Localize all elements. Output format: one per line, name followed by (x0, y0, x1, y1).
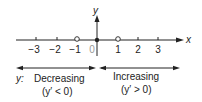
interval-prefix: y: (16, 74, 24, 84)
decreasing-condition: (y′ < 0) (42, 87, 73, 97)
decreasing-label: Decreasing (34, 74, 85, 84)
increasing-start-arrowhead-icon (99, 66, 106, 70)
tick-label: 0 (89, 45, 95, 55)
tick-label: −1 (69, 45, 80, 55)
x-axis-arrowhead-icon (176, 38, 184, 43)
tick-label: 1 (115, 45, 121, 55)
right-arrowhead-icon (173, 66, 180, 70)
tick-label: −2 (49, 45, 60, 55)
tick-label: 2 (135, 45, 141, 55)
filled-dot-icon (95, 38, 99, 42)
open-circle-icon (75, 37, 80, 42)
x-axis-label: x (186, 35, 191, 45)
y-axis-arrowhead-icon (95, 15, 100, 22)
open-circle-icon (116, 37, 121, 42)
left-arrowhead-icon (16, 66, 23, 70)
increasing-label: Increasing (113, 72, 159, 82)
tick-label: −3 (28, 45, 39, 55)
tick-label: 3 (155, 45, 161, 55)
increasing-condition: (y′ > 0) (121, 85, 152, 95)
y-axis-label: y (93, 6, 98, 16)
decreasing-end-arrowhead-icon (89, 66, 96, 70)
sign-chart-diagram: y x −3−2−10123 y: Decreasing (y′ < 0) In… (0, 0, 202, 102)
